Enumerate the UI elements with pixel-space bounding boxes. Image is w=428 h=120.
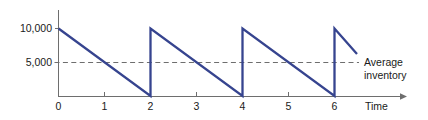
x-tick-label-4: 4	[233, 101, 253, 112]
average-inventory-annotation: Average inventory	[364, 56, 407, 81]
x-tick-label-2: 2	[141, 101, 161, 112]
inventory-sawtooth-chart: 10,000 5,000 0 1 2 3 4 5 6 Time Average …	[0, 0, 428, 120]
average-inventory-annotation-line2: inventory	[364, 69, 407, 82]
y-tick-label-10000: 10,000	[0, 23, 52, 34]
x-tick-label-3: 3	[187, 101, 207, 112]
average-inventory-annotation-line1: Average	[364, 56, 407, 69]
x-tick-label-6: 6	[325, 101, 345, 112]
x-axis-arrow-icon	[400, 93, 407, 100]
x-tick-label-0: 0	[49, 101, 69, 112]
y-tick-label-5000: 5,000	[0, 57, 52, 68]
x-tick-label-5: 5	[279, 101, 299, 112]
x-tick-label-1: 1	[95, 101, 115, 112]
x-axis-title: Time	[365, 101, 388, 112]
